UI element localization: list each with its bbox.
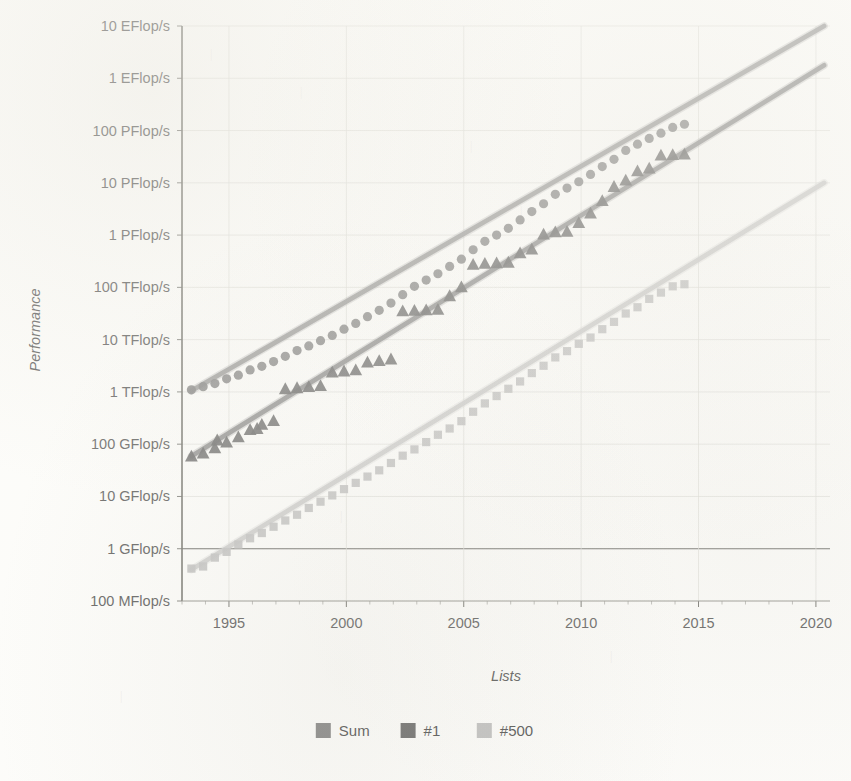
data-point-circle [363,312,372,321]
data-point-square [258,529,266,537]
data-point-square [551,353,559,361]
data-point-circle [281,352,290,361]
data-point-circle [527,207,536,216]
data-point-circle [269,357,278,366]
data-point-circle [199,382,208,391]
data-point-circle [551,190,560,199]
data-point-square [340,485,348,493]
data-point-square [539,362,547,370]
data-point-square [516,377,524,385]
chart-legend: Sum#1#500 [316,722,533,739]
data-point-square [305,504,313,512]
legend-label: #1 [424,722,441,739]
data-point-square [563,347,571,355]
data-point-circle [574,177,583,186]
svg-text:|: | [210,46,213,61]
data-point-circle [457,255,466,264]
y-axis-tick-label: 1 EFlop/s [109,70,170,86]
data-point-square [281,516,289,524]
y-axis-tick-label: 100 PFlop/s [93,123,170,139]
data-point-circle [633,140,642,149]
svg-text:|: | [120,688,123,703]
data-point-square [410,445,418,453]
data-point-circle [386,298,395,307]
x-axis-tick-label: 2010 [565,615,597,631]
data-point-square [446,424,454,432]
data-point-square [363,472,371,480]
data-point-circle [234,371,243,380]
y-axis-tick-label: 10 GFlop/s [99,488,170,504]
data-point-square [610,318,618,326]
data-point-circle [656,129,665,138]
data-point-circle [480,237,489,246]
svg-text:|: | [300,84,303,99]
x-axis-tick-label: 1995 [213,615,245,631]
data-point-circle [375,306,384,315]
data-point-square [328,491,336,499]
data-point-circle [351,319,360,328]
data-point-square [645,295,653,303]
data-point-circle [586,170,595,179]
data-point-circle [222,374,231,383]
y-axis-tick-label: 1 PFlop/s [109,227,170,243]
data-point-square [223,548,231,556]
data-point-circle [410,282,419,291]
data-point-square [352,479,360,487]
chart-canvas: | | | | | | | 10 EFlop/s1 EFlop/s100 PFl… [0,0,851,781]
data-point-circle [304,341,313,350]
y-axis-tick-label: 1 TFlop/s [110,384,170,400]
data-point-square [469,408,477,416]
x-axis-tick-label: 2005 [448,615,480,631]
data-point-square [387,459,395,467]
data-point-circle [562,183,571,192]
legend-item-rank500[interactable]: #500 [477,722,533,739]
data-point-circle [621,146,630,155]
data-point-circle [598,162,607,171]
y-axis-tick-label: 100 MFlop/s [90,593,170,609]
y-axis-tick-label: 10 PFlop/s [101,175,170,191]
legend-item-sum[interactable]: Sum [316,722,370,739]
data-point-square [504,385,512,393]
data-point-circle [257,362,266,371]
legend-swatch [477,723,492,738]
data-point-square [399,452,407,460]
data-point-square [422,438,430,446]
data-point-circle [210,379,219,388]
x-axis-tick-label: 2015 [682,615,714,631]
data-point-square [434,431,442,439]
svg-text:|: | [470,138,473,153]
data-point-square [598,325,606,333]
data-point-circle [433,269,442,278]
legend-label: #500 [500,722,533,739]
legend-label: Sum [339,722,370,739]
x-axis-tick-label: 2020 [800,615,832,631]
data-point-circle [680,120,689,129]
data-point-circle [422,275,431,284]
data-point-circle [609,155,618,164]
performance-development-chart: | | | | | | | 10 EFlop/s1 EFlop/s100 PFl… [0,0,851,781]
y-axis-tick-label: 10 EFlop/s [101,18,170,34]
data-point-circle [469,245,478,254]
data-point-circle [492,230,501,239]
data-point-circle [504,224,513,233]
data-point-circle [187,385,196,394]
data-point-square [269,523,277,531]
y-axis-tick-label: 1 GFlop/s [107,541,170,557]
data-point-square [199,562,207,570]
data-point-square [293,511,301,519]
legend-swatch [401,723,416,738]
data-point-circle [339,325,348,334]
data-point-square [669,282,677,290]
data-point-square [657,288,665,296]
data-point-circle [445,262,454,271]
y-axis-tick-label: 100 GFlop/s [91,436,170,452]
data-point-square [622,309,630,317]
data-point-square [375,466,383,474]
data-point-circle [316,336,325,345]
data-point-square [234,540,242,548]
svg-text:|: | [340,508,343,523]
data-point-circle [645,134,654,143]
data-point-square [680,280,688,288]
data-point-square [246,534,254,542]
data-point-square [316,498,324,506]
